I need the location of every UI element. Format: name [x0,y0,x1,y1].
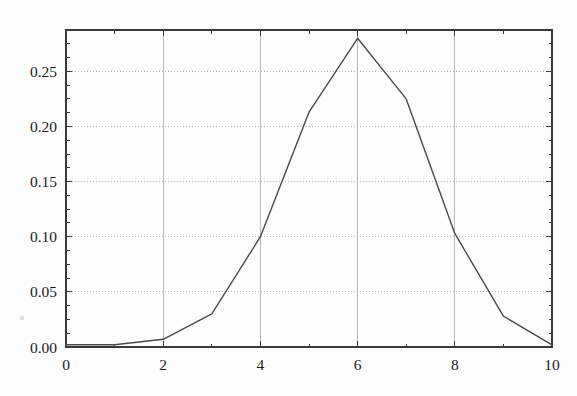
y-axis-tick-label: 0.05 [30,283,57,300]
y-axis-tick-label: 0.20 [30,118,57,135]
x-axis-tick-label: 10 [544,356,560,373]
x-axis-tick-label: 8 [451,356,459,373]
y-axis-tick-label: 0.00 [30,339,57,356]
x-axis-tick-label: 4 [257,356,265,373]
y-axis-tick-label: 0.10 [30,228,57,245]
x-axis-tick-label: 2 [159,356,167,373]
scan-artifact [20,316,24,320]
y-axis-tick-label: 0.25 [30,63,57,80]
line-chart: 0.000.050.100.150.200.250246810 [0,0,577,396]
x-axis-tick-label: 0 [62,356,70,373]
data-series-line [66,38,552,345]
tick-labels: 0.000.050.100.150.200.250246810 [30,63,560,373]
chart-figure: 0.000.050.100.150.200.250246810 [0,0,577,396]
y-axis-tick-label: 0.15 [30,173,57,190]
plot-frame [66,30,552,347]
gridlines [66,30,552,347]
axis-ticks [66,30,552,347]
x-axis-tick-label: 6 [354,356,362,373]
